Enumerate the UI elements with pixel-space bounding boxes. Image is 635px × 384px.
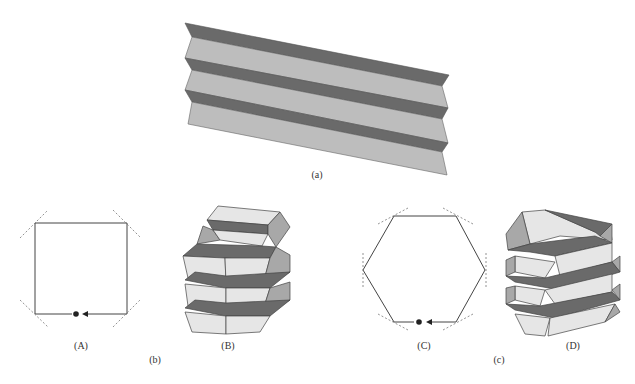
start-dot-icon xyxy=(73,311,79,317)
figure-canvas: (a) (A) xyxy=(0,0,635,384)
arrow-head-icon xyxy=(82,311,88,317)
hexagon-fold-path xyxy=(363,208,486,330)
hexagonal-twisted-tube xyxy=(506,210,620,336)
square-folded-tube xyxy=(183,206,290,334)
panel-label-A: (A) xyxy=(74,340,88,352)
square-fold-path xyxy=(20,210,140,327)
panel-label-D: (D) xyxy=(566,340,580,352)
panel-label-b: (b) xyxy=(149,354,161,366)
arrow-head-icon xyxy=(426,319,432,325)
panel-label-C: (C) xyxy=(417,340,430,352)
panel-label-c: (c) xyxy=(493,354,504,366)
panel-label-B: (B) xyxy=(221,340,234,352)
panel-label-a: (a) xyxy=(311,169,322,181)
start-dot-icon xyxy=(416,319,422,325)
pleated-sheet-a xyxy=(185,23,449,175)
